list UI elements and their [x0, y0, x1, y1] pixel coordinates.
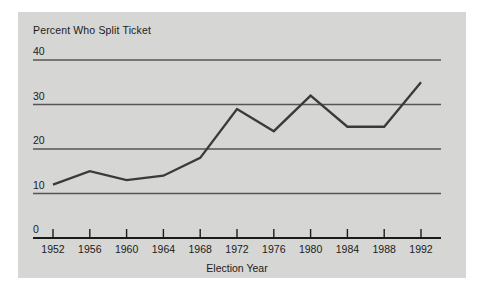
x-axis-tick-label: 1960: [115, 243, 138, 255]
x-axis-tick-label: 1992: [409, 243, 432, 255]
x-axis-tick-label: 1956: [78, 243, 101, 255]
x-axis-tick-label: 1976: [262, 243, 285, 255]
y-axis-tick-label: 30: [33, 90, 45, 102]
data-line-series-1: [53, 82, 421, 184]
y-axis-tick-label: 10: [33, 179, 45, 191]
x-axis-tick-label: 1968: [189, 243, 212, 255]
x-axis-tick-label: 1984: [336, 243, 359, 255]
y-axis-tick-label: 40: [33, 45, 45, 57]
x-axis-tick-label: 1952: [41, 243, 64, 255]
x-tick-marks-group: [53, 229, 421, 237]
x-axis-tick-label: 1980: [299, 243, 322, 255]
x-axis-tick-label: 1988: [373, 243, 396, 255]
x-axis-title: Election Year: [33, 262, 441, 274]
x-axis-tick-label: 1972: [225, 243, 248, 255]
y-axis-tick-label: 0: [33, 223, 39, 235]
figure: Percent Who Split Ticket 010203040 19521…: [0, 0, 482, 298]
x-axis-tick-label: 1964: [152, 243, 175, 255]
y-axis-tick-label: 20: [33, 134, 45, 146]
